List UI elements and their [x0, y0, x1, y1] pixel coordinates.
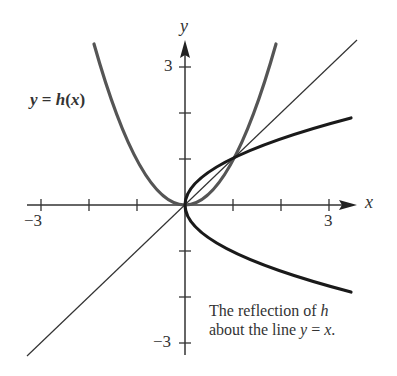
x-axis-label: x — [365, 192, 373, 213]
h-label-y: y — [30, 90, 38, 109]
x-tick-label-neg3: −3 — [24, 211, 42, 231]
x-tick-label-3: 3 — [324, 211, 333, 231]
caption-eq: = — [307, 321, 324, 338]
h-label-fn: h — [56, 90, 65, 109]
y-axis-label: y — [180, 16, 188, 37]
caption-h: h — [321, 302, 329, 319]
caption-line-2: about the line y = x. — [209, 320, 335, 339]
h-label-eq: = — [38, 90, 56, 109]
h-label-close: ) — [79, 90, 85, 109]
caption-text-2: about the line — [209, 321, 300, 338]
chart-canvas — [0, 0, 397, 376]
y-tick-label-3: 3 — [164, 56, 173, 76]
y-tick-label-neg3: −3 — [153, 332, 171, 352]
caption-end: . — [331, 321, 335, 338]
h-function-label: y = h(x) — [30, 90, 85, 110]
caption-text-1: The reflection of — [209, 302, 321, 319]
reflection-caption: The reflection of h about the line y = x… — [209, 301, 335, 339]
caption-line-1: The reflection of h — [209, 301, 335, 320]
